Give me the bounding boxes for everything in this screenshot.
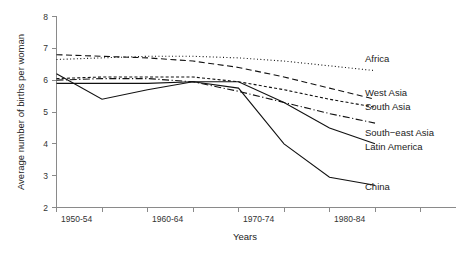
x-tick-label-1960-64: 1960-64 bbox=[152, 214, 183, 224]
series-label-africa: Africa bbox=[365, 53, 390, 64]
y-tick-label-6: 6 bbox=[43, 75, 48, 85]
series-label-south-east-asia: South−east Asia bbox=[365, 127, 435, 138]
series-label-latin-america: Latin America bbox=[365, 141, 423, 152]
y-tick-label-2: 2 bbox=[43, 203, 48, 213]
line-chart-canvas: 8 7 6 5 4 3 2 1950-54 1960-64 1970-74 19… bbox=[0, 0, 464, 254]
series-label-south-asia: South Asia bbox=[365, 101, 411, 112]
y-axis-title: Average number of births per woman bbox=[15, 34, 26, 190]
chart-figure: 8 7 6 5 4 3 2 1950-54 1960-64 1970-74 19… bbox=[0, 0, 464, 254]
y-axis-ticks bbox=[52, 17, 57, 208]
series-label-china: China bbox=[365, 181, 391, 192]
y-tick-label-3: 3 bbox=[43, 171, 48, 181]
series-line-africa bbox=[57, 56, 376, 70]
x-tick-label-1970-74: 1970-74 bbox=[243, 214, 274, 224]
y-tick-label-8: 8 bbox=[43, 12, 48, 22]
y-tick-label-7: 7 bbox=[43, 43, 48, 53]
y-tick-label-5: 5 bbox=[43, 107, 48, 117]
series-line-china bbox=[57, 74, 376, 185]
x-axis-title: Years bbox=[233, 231, 257, 242]
x-tick-label-1980-84: 1980-84 bbox=[334, 214, 365, 224]
x-tick-label-1950-54: 1950-54 bbox=[61, 214, 92, 224]
series-label-west-asia: West Asia bbox=[365, 87, 408, 98]
x-axis-ticks bbox=[57, 208, 421, 213]
y-tick-label-4: 4 bbox=[43, 139, 48, 149]
